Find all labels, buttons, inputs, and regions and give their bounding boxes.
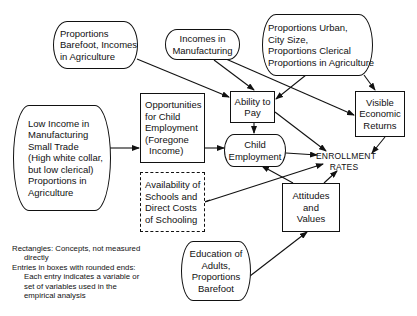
legend-rounded-line4: empirical analysis bbox=[12, 291, 140, 300]
node-text-line: for Child bbox=[145, 111, 204, 123]
node-low-income-manufacturing: Low Income in Manufacturing Small Trade … bbox=[13, 105, 111, 211]
legend-rectangles-line2: directly bbox=[12, 253, 140, 262]
node-text-line: Manufacturing bbox=[28, 129, 110, 141]
node-text-line: RATES bbox=[316, 162, 372, 173]
node-text-line: Income) bbox=[145, 145, 204, 157]
edge-education-to-attitudes bbox=[250, 232, 307, 276]
node-text-line: Adults, bbox=[201, 260, 230, 272]
node-text-line: Direct Costs bbox=[145, 202, 204, 214]
node-text-line: Manufacturing bbox=[172, 45, 232, 57]
node-text-line: Values bbox=[297, 213, 325, 225]
node-text-line: in Agriculture bbox=[60, 51, 137, 63]
edge-manuf-to-ability bbox=[214, 60, 254, 90]
node-text-line: and bbox=[303, 202, 319, 214]
node-text-line: Incomes in bbox=[180, 33, 226, 45]
node-text-line: Small Trade bbox=[28, 141, 110, 153]
node-opportunities-child-employment: Opportunities for Child Employment (Fore… bbox=[140, 93, 205, 163]
edge-attitudes-to-childemp bbox=[262, 166, 293, 183]
node-text-line: Availability of bbox=[145, 179, 204, 191]
node-text-line: Proportions bbox=[60, 28, 137, 40]
node-text-line: Proportions in Agriculture bbox=[268, 57, 372, 69]
node-text-line: Schools and bbox=[145, 191, 204, 203]
legend-rounded-line1: Entries in boxes with rounded ends: bbox=[12, 263, 140, 272]
node-text-line: Proportions Clerical bbox=[268, 45, 372, 57]
node-text-line: Employment bbox=[229, 151, 282, 163]
node-enrollment-rates: ENROLLMENT RATES bbox=[316, 151, 372, 173]
node-text-line: ENROLLMENT bbox=[316, 151, 372, 162]
node-education-of-adults: Education of Adults, Proportions Barefoo… bbox=[181, 241, 251, 301]
node-visible-economic-returns: Visible Economic Returns bbox=[355, 91, 405, 137]
node-text-line: Barefoot bbox=[198, 283, 234, 295]
node-child-employment: Child Employment bbox=[224, 134, 286, 167]
node-text-line: of Schooling bbox=[145, 214, 204, 226]
node-incomes-in-manufacturing: Incomes in Manufacturing bbox=[165, 29, 240, 60]
node-text-line: Proportions Urban, bbox=[268, 22, 372, 34]
node-text-line: Proportions in bbox=[28, 175, 110, 187]
node-text-line: Ability to bbox=[235, 96, 271, 108]
node-ability-to-pay: Ability to Pay bbox=[230, 91, 275, 123]
node-text-line: City Size, bbox=[268, 34, 372, 46]
node-availability-of-schools: Availability of Schools and Direct Costs… bbox=[140, 172, 205, 232]
legend-rounded-line3: set of variables used in the bbox=[12, 282, 140, 291]
node-text-line: Proportions bbox=[192, 271, 241, 283]
node-text-line: Child bbox=[244, 139, 266, 151]
node-attitudes-and-values: Attitudes and Values bbox=[282, 183, 340, 232]
node-text-line: Opportunities bbox=[145, 99, 204, 111]
edge-barefoot-to-ability bbox=[137, 59, 229, 97]
node-text-line: Visible bbox=[366, 97, 394, 109]
node-text-line: Pay bbox=[244, 107, 260, 119]
node-proportions-barefoot-incomes-agriculture: Proportions Barefoot, Incomes in Agricul… bbox=[53, 21, 138, 69]
node-text-line: but low clerical) bbox=[28, 164, 110, 176]
node-text-line: Employment bbox=[145, 122, 204, 134]
node-text-line: Low Income in bbox=[28, 118, 110, 130]
node-proportions-urban-city-size: Proportions Urban, City Size, Proportion… bbox=[262, 14, 373, 76]
legend-rounded-line2: Each entry indicates a variable or bbox=[12, 272, 140, 281]
node-text-line: Returns bbox=[363, 120, 396, 132]
edge-urban-to-ability bbox=[276, 75, 306, 99]
node-text-line: Education of bbox=[190, 248, 243, 260]
node-text-line: Barefoot, Incomes bbox=[60, 39, 137, 51]
node-text-line: Attitudes bbox=[293, 190, 330, 202]
legend-rectangles-line1: Rectangles: Concepts, not measured bbox=[12, 244, 140, 253]
node-text-line: (High white collar, bbox=[28, 152, 110, 164]
node-text-line: (Foregone bbox=[145, 134, 204, 146]
node-text-line: Agriculture bbox=[28, 187, 110, 199]
edge-childemp-to-enrollment bbox=[286, 153, 317, 155]
node-text-line: Economic bbox=[359, 108, 401, 120]
edge-urban-to-visible bbox=[364, 75, 375, 90]
legend: Rectangles: Concepts, not measured direc… bbox=[12, 244, 140, 300]
